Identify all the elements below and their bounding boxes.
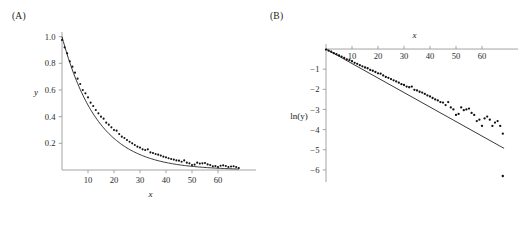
panel-a-data-point — [217, 166, 219, 168]
panel-a-data-point — [113, 129, 115, 131]
panel-b-ytick-label: −1 — [310, 64, 319, 74]
panel-a-ytick-label: 1.0 — [45, 32, 56, 42]
panel-a-data-point — [71, 66, 73, 68]
panel-a-data-point — [136, 146, 138, 148]
panel-b-xtick-label: 40 — [426, 51, 435, 61]
panel-b-data-point — [418, 91, 420, 93]
panel-b-data-point — [348, 59, 350, 61]
panel-a-ytick-label: 0.6 — [45, 85, 56, 95]
panel-b-xaxis-title: x — [411, 30, 416, 40]
panel-b-data-point — [476, 120, 478, 122]
panel-b-data-point — [405, 85, 407, 87]
panel-a-data-point — [201, 162, 203, 164]
figure: (A) 1020304050600.20.40.60.81.0xy (B) 10… — [0, 0, 532, 230]
panel-a-data-point — [162, 156, 164, 158]
panel-b-xtick-label: 20 — [374, 51, 383, 61]
panel-a-data-point — [116, 130, 118, 132]
panel-a-fit-curve — [62, 37, 239, 169]
panel-a-ytick-label: 0.8 — [45, 58, 56, 68]
panel-a-data-point — [77, 78, 79, 80]
panel-a-data-point — [194, 164, 196, 166]
panel-b-data-point — [374, 71, 376, 73]
panel-a-svg: 1020304050600.20.40.60.81.0xy — [56, 26, 256, 182]
panel-b-data-point — [411, 85, 413, 87]
panel-b-data-point — [447, 101, 449, 103]
panel-b-data-point — [377, 72, 379, 74]
panel-a-data-point — [139, 147, 141, 149]
panel-a-data-point — [220, 165, 222, 167]
panel-b-data-point — [491, 125, 493, 127]
panel-a-data-point — [230, 165, 232, 167]
panel-b-data-point — [364, 66, 366, 68]
panel-b-data-point — [421, 91, 423, 93]
panel-a-xtick-label: 20 — [110, 175, 119, 185]
panel-b: (B) 102030405060−1−2−3−4−5−6xln(y) — [266, 0, 532, 230]
panel-b-data-point — [390, 78, 392, 80]
panel-a-data-point — [118, 133, 120, 135]
panel-a-data-point — [168, 157, 170, 159]
panel-b-data-point — [478, 119, 480, 121]
panel-a-xaxis-title: x — [147, 189, 152, 199]
panel-b-data-point — [382, 74, 384, 76]
panel-b-plot-area: 102030405060−1−2−3−4−5−6xln(y) — [314, 28, 514, 178]
panel-b-data-point — [499, 125, 501, 127]
panel-a-data-point — [121, 136, 123, 138]
panel-a-data-point — [191, 164, 193, 166]
panel-b-data-point — [416, 89, 418, 91]
panel-a-data-point — [188, 162, 190, 164]
panel-b-data-point — [387, 77, 389, 79]
panel-a-data-point — [110, 126, 112, 128]
panel-b-svg: 102030405060−1−2−3−4−5−6xln(y) — [314, 28, 520, 188]
panel-a-data-point — [82, 89, 84, 91]
panel-a-data-point — [155, 153, 157, 155]
panel-a-data-point — [129, 141, 131, 143]
panel-a-data-point — [147, 148, 149, 150]
panel-b-data-point — [361, 65, 363, 67]
panel-b-data-point — [450, 106, 452, 108]
panel-a-data-point — [181, 161, 183, 163]
panel-b-data-point — [385, 76, 387, 78]
panel-b-data-point — [494, 121, 496, 123]
panel-a-data-point — [79, 83, 81, 85]
panel-b-data-point — [356, 63, 358, 65]
panel-a-data-point — [90, 102, 92, 104]
panel-a-data-point — [123, 137, 125, 139]
panel-b-data-point — [413, 89, 415, 91]
panel-a-xtick-label: 50 — [188, 175, 197, 185]
panel-b-data-point — [470, 112, 472, 114]
panel-a-data-point — [165, 156, 167, 158]
panel-a-data-point — [178, 160, 180, 162]
panel-a-data-point — [64, 46, 66, 48]
panel-b-data-point — [439, 101, 441, 103]
panel-b-data-point — [343, 57, 345, 59]
panel-b-ytick-label: −2 — [310, 84, 319, 94]
panel-a-data-point — [74, 72, 76, 74]
panel-b-data-point — [379, 72, 381, 74]
panel-b-data-point — [400, 83, 402, 85]
panel-a-data-point — [214, 165, 216, 167]
panel-b-data-point — [403, 84, 405, 86]
panel-b-data-point — [481, 125, 483, 127]
panel-b-data-point — [437, 99, 439, 101]
panel-a-data-point — [170, 158, 172, 160]
panel-a-data-point — [131, 142, 133, 144]
panel-a-data-point — [142, 148, 144, 150]
panel-b-data-point — [335, 53, 337, 55]
panel-a-data-point — [209, 164, 211, 166]
panel-b-data-point — [468, 107, 470, 109]
panel-b-data-point — [395, 80, 397, 82]
panel-b-ytick-label: −6 — [310, 165, 320, 175]
panel-b-data-point — [351, 60, 353, 62]
panel-b-data-point — [489, 119, 491, 121]
panel-b-data-point — [369, 69, 371, 71]
panel-b-data-point — [333, 52, 335, 54]
panel-b-data-point — [392, 79, 394, 81]
panel-b-data-point — [330, 51, 332, 53]
panel-b-data-point — [325, 48, 327, 50]
panel-b-data-point — [429, 95, 431, 97]
panel-b-data-point — [340, 56, 342, 58]
panel-b-data-point — [431, 97, 433, 99]
panel-a-xtick-label: 40 — [162, 175, 171, 185]
panel-a-ytick-label: 0.4 — [45, 112, 56, 122]
panel-a-data-point — [87, 96, 89, 98]
